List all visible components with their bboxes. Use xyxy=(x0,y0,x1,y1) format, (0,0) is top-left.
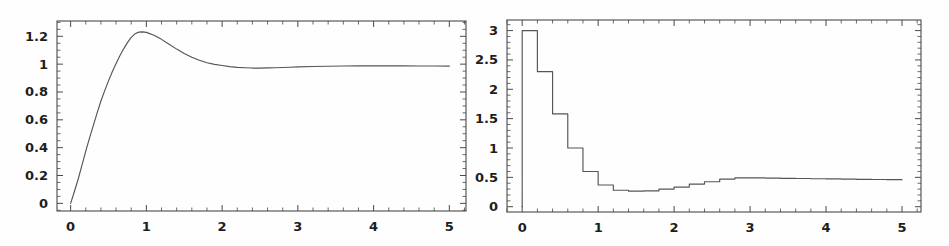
right-plot-svg: 00.511.522.53 012345 xyxy=(475,0,949,246)
right-plot-frame xyxy=(507,20,921,212)
left-plot-y-tick-label: 1 xyxy=(39,57,48,72)
right-plot-y-tick-label: 2.5 xyxy=(475,52,498,67)
right-plot-y-tick-label: 0.5 xyxy=(475,170,498,185)
right-plot-ticks-major xyxy=(507,20,921,212)
left-plot-x-tick-label: 3 xyxy=(293,219,302,234)
right-plot-y-tick-labels: 00.511.522.53 xyxy=(475,23,498,214)
right-plot-x-tick-label: 1 xyxy=(594,220,603,235)
left-plot-y-tick-label: 0.6 xyxy=(25,112,48,127)
left-plot-frame xyxy=(57,21,466,211)
right-plot-x-tick-label: 5 xyxy=(897,220,906,235)
left-plot-svg: 00.20.40.60.811.2 012345 xyxy=(0,0,475,246)
right-plot-x-tick-label: 3 xyxy=(746,220,755,235)
left-plot-x-tick-label: 1 xyxy=(142,219,151,234)
right-plot-x-tick-labels: 012345 xyxy=(518,220,907,235)
left-plot-ticks-major xyxy=(57,21,466,211)
right-plot-y-tick-label: 1.5 xyxy=(475,111,498,126)
right-plot-panel: 00.511.522.53 012345 xyxy=(475,0,949,246)
right-plot-x-tick-label: 0 xyxy=(518,220,527,235)
right-plot-x-tick-label: 4 xyxy=(822,220,831,235)
left-plot-x-tick-label: 4 xyxy=(369,219,378,234)
left-plot-y-tick-labels: 00.20.40.60.811.2 xyxy=(25,29,48,211)
right-plot-y-tick-label: 0 xyxy=(489,199,498,214)
left-plot-y-tick-label: 0.2 xyxy=(25,168,48,183)
left-plot-y-tick-label: 0 xyxy=(39,196,48,211)
left-plot-y-tick-label: 0.8 xyxy=(25,84,48,99)
right-plot-y-tick-label: 2 xyxy=(489,82,498,97)
right-plot-y-tick-label: 3 xyxy=(489,23,498,38)
left-plot-x-tick-label: 0 xyxy=(66,219,75,234)
left-plot-x-tick-labels: 012345 xyxy=(66,219,454,234)
left-plot-curve xyxy=(71,32,450,203)
right-plot-x-tick-label: 2 xyxy=(670,220,679,235)
left-plot-ticks-minor xyxy=(57,21,466,211)
left-plot-y-tick-label: 1.2 xyxy=(25,29,48,44)
right-plot-y-tick-label: 1 xyxy=(489,141,498,156)
right-plot-curve xyxy=(522,31,902,207)
figure-container: 00.20.40.60.811.2 012345 00.511.522.53 0… xyxy=(0,0,949,246)
left-plot-y-tick-label: 0.4 xyxy=(25,140,48,155)
left-plot-x-tick-label: 2 xyxy=(218,219,227,234)
left-plot-x-tick-label: 5 xyxy=(445,219,454,234)
left-plot-panel: 00.20.40.60.811.2 012345 xyxy=(0,0,475,246)
right-plot-ticks-minor xyxy=(507,20,921,212)
